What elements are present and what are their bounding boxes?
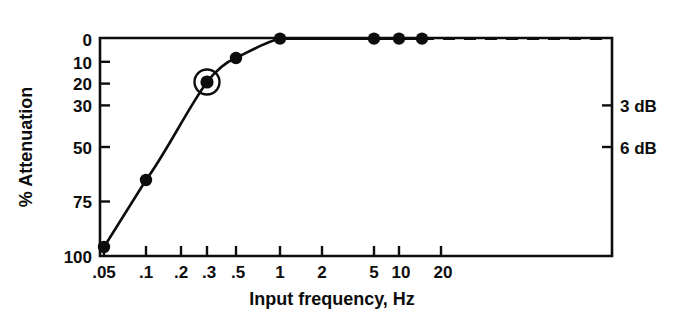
x-label-1: 1: [275, 263, 284, 282]
y-label-30: 30: [73, 97, 92, 116]
chart-canvas: 0 10 20 30 50 75 100 .05 .1 .2 .3 .5 1 2…: [0, 0, 691, 322]
data-point-1hz: [274, 32, 286, 44]
x-axis-title: Input frequency, Hz: [249, 289, 415, 309]
y-label-10: 10: [73, 54, 92, 73]
x-label-005: .05: [92, 263, 116, 282]
data-curve-group: [104, 39, 612, 247]
data-point-markers: [98, 32, 428, 253]
db-label-3: 3 dB: [620, 97, 657, 116]
x-label-01: .1: [139, 263, 153, 282]
y-axis-title: % Attenuation: [16, 87, 36, 207]
data-point-05hz: [230, 52, 242, 64]
x-label-10: 10: [392, 263, 411, 282]
x-label-05: .5: [231, 263, 245, 282]
data-point-01hz: [140, 174, 152, 186]
data-point-005hz: [98, 241, 110, 253]
attenuation-curve: [104, 39, 422, 247]
y-label-0: 0: [83, 31, 92, 50]
data-point-5hz: [368, 32, 380, 44]
attenuation-chart-figure: 0 10 20 30 50 75 100 .05 .1 .2 .3 .5 1 2…: [0, 0, 691, 322]
x-tick-labels: .05 .1 .2 .3 .5 1 2 5 10 20: [92, 263, 452, 282]
y-tick-labels: 0 10 20 30 50 75 100: [64, 31, 92, 267]
secondary-axis-ticks: [602, 105, 612, 147]
plot-frame: [100, 38, 612, 256]
db-label-6: 6 dB: [620, 139, 657, 158]
x-label-2: 2: [317, 263, 326, 282]
data-point-10hz: [393, 32, 405, 44]
db-axis-labels: 3 dB 6 dB: [620, 97, 657, 158]
x-label-5: 5: [369, 263, 378, 282]
y-label-75: 75: [73, 193, 92, 212]
plot-border: [100, 38, 612, 256]
y-label-100: 100: [64, 248, 92, 267]
x-axis-ticks: [104, 246, 441, 256]
data-point-15hz: [416, 32, 428, 44]
y-label-50: 50: [73, 139, 92, 158]
y-axis-ticks: [100, 62, 110, 202]
x-label-03: .3: [202, 263, 216, 282]
data-point-03hz: [200, 75, 213, 88]
x-label-20: 20: [434, 263, 453, 282]
y-label-20: 20: [73, 75, 92, 94]
x-label-02: .2: [174, 263, 188, 282]
